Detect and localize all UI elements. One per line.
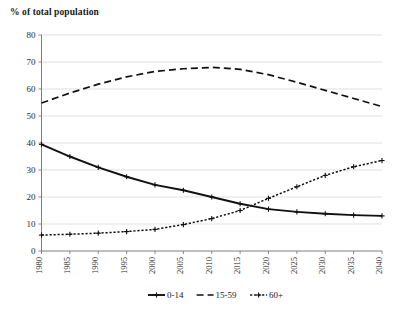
x-tick-label: 2005 bbox=[175, 257, 185, 274]
y-tick-label: 80 bbox=[27, 30, 37, 40]
legend-label-0-14[interactable]: 0-14 bbox=[167, 290, 184, 300]
y-tick-label: 10 bbox=[27, 219, 37, 229]
y-tick-label: 60 bbox=[27, 84, 37, 94]
x-tick-label: 1995 bbox=[119, 257, 129, 274]
y-tick-label: 50 bbox=[27, 111, 37, 121]
y-tick-label: 70 bbox=[27, 57, 37, 67]
y-tick-label: 0 bbox=[31, 246, 36, 256]
y-tick-label: 40 bbox=[27, 138, 37, 148]
series-line bbox=[42, 67, 383, 106]
x-tick-label: 2030 bbox=[317, 257, 327, 274]
x-tick-label: 2040 bbox=[374, 257, 384, 274]
chart-plot-svg: 01020304050607080 1980198519901995200020… bbox=[0, 0, 398, 314]
x-tick-label: 2015 bbox=[232, 257, 242, 274]
series-line bbox=[42, 144, 383, 216]
chart-container: % of total population 01020304050607080 … bbox=[0, 0, 398, 314]
series-15-59 bbox=[42, 67, 383, 106]
x-axis-ticks: 1980198519901995200020052010201520202025… bbox=[34, 251, 385, 274]
data-series bbox=[39, 67, 385, 237]
x-tick-label: 1985 bbox=[62, 257, 72, 274]
x-tick-label: 1990 bbox=[90, 257, 100, 274]
legend-label-60+[interactable]: 60+ bbox=[269, 290, 283, 300]
x-tick-label: 2010 bbox=[204, 257, 214, 274]
x-tick-label: 2035 bbox=[346, 257, 356, 274]
x-tick-label: 1980 bbox=[34, 257, 44, 274]
x-tick-label: 2020 bbox=[261, 257, 271, 274]
x-tick-label: 2025 bbox=[289, 257, 299, 274]
chart-legend[interactable]: 0-1415-5960+ bbox=[148, 290, 283, 300]
y-tick-label: 30 bbox=[27, 165, 37, 175]
y-tick-label: 20 bbox=[27, 192, 37, 202]
legend-label-15-59[interactable]: 15-59 bbox=[216, 290, 237, 300]
y-axis-ticks: 01020304050607080 bbox=[27, 30, 42, 256]
x-tick-label: 2000 bbox=[147, 257, 157, 274]
series-0-14 bbox=[39, 142, 385, 219]
